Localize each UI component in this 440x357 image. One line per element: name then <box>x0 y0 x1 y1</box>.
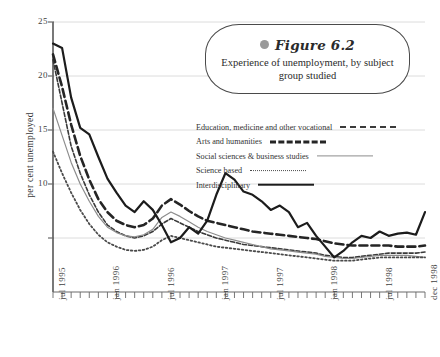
figure-container: per cent unemployed 10152025 jul 1995jan… <box>0 0 440 357</box>
legend-item: Education, medicine and other vocational <box>196 120 436 135</box>
x-tick-label: jul 1998 <box>384 267 394 300</box>
legend-line-swatch <box>270 139 326 145</box>
legend-item: Social sciences & business studies <box>196 149 436 164</box>
x-tick-label: jul 1995 <box>57 267 67 300</box>
legend-item-label: Education, medicine and other vocational <box>196 123 332 132</box>
figure-number-line: Figure 6.2 <box>260 37 355 53</box>
legend-item: Arts and humanities <box>196 135 436 150</box>
figure-number: Figure 6.2 <box>275 37 355 53</box>
figure-caption: Experience of unemployment, by subject g… <box>216 56 399 82</box>
chart-legend: Education, medicine and other vocational… <box>196 120 436 193</box>
x-tick-label: jan 1998 <box>329 266 339 300</box>
legend-item: Interdisciplinary <box>196 178 436 193</box>
legend-item-label: Interdisciplinary <box>196 181 250 190</box>
legend-item-label: Social sciences & business studies <box>196 152 309 161</box>
x-tick-label: dec 1998 <box>429 264 439 300</box>
x-tick-label: jan 1997 <box>220 266 230 300</box>
x-tick-label: jul 1996 <box>166 267 176 300</box>
legend-item-label: Science based <box>196 166 242 175</box>
x-tick-label: jul 1997 <box>275 267 285 300</box>
legend-line-swatch <box>250 168 306 174</box>
legend-line-swatch <box>317 153 373 159</box>
legend-item-label: Arts and humanities <box>196 137 262 146</box>
figure-title-callout: Figure 6.2 Experience of unemployment, b… <box>205 24 410 94</box>
bullet-icon <box>260 40 269 49</box>
x-tick-label: jan 1996 <box>111 266 121 300</box>
legend-line-swatch <box>258 182 314 188</box>
legend-line-swatch <box>340 124 396 130</box>
legend-item: Science based <box>196 164 436 179</box>
